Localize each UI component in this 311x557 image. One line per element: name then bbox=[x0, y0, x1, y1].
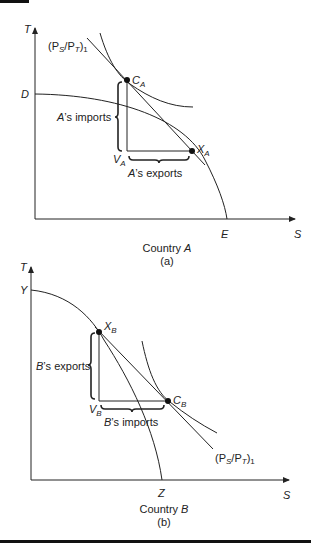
intercept-d-label: D bbox=[21, 88, 29, 100]
indifference-curve-a bbox=[100, 33, 193, 107]
production-point-a bbox=[189, 148, 195, 154]
bottom-rule bbox=[0, 540, 311, 543]
axis-s-label-a: S bbox=[294, 228, 302, 240]
price-ratio-label-b: (PS/PT)1 bbox=[215, 452, 255, 466]
price-line-a bbox=[87, 38, 205, 165]
exports-label-b: B’s exports bbox=[36, 360, 91, 372]
trade-diagram: T S D E (PS/PT)1 CA XA VA A’s imports A’… bbox=[0, 0, 311, 557]
imports-brace-a bbox=[115, 82, 122, 151]
axis-t-label-a: T bbox=[24, 23, 32, 35]
caption-country-b: Country B bbox=[140, 503, 189, 515]
point-xb-label: XB bbox=[103, 320, 117, 335]
caption-country-a: Country A bbox=[143, 242, 192, 254]
exports-brace-a bbox=[129, 156, 189, 163]
panel-b: T S Y Z XB CB VB B’s exports B’s imports… bbox=[20, 261, 291, 528]
intercept-e-label: E bbox=[221, 228, 229, 240]
caption-letter-a: (a) bbox=[160, 255, 173, 267]
price-line-b bbox=[95, 327, 213, 449]
point-cb-label: CB bbox=[173, 394, 187, 409]
panel-a: T S D E (PS/PT)1 CA XA VA A’s imports A’… bbox=[21, 23, 302, 267]
imports-label-b: B’s imports bbox=[104, 416, 159, 428]
caption-letter-b: (b) bbox=[157, 516, 170, 528]
imports-brace-b bbox=[101, 405, 164, 412]
intercept-y-label: Y bbox=[20, 284, 28, 296]
axis-s-label-b: S bbox=[283, 489, 291, 501]
consumption-point-b bbox=[165, 398, 171, 404]
exports-label-a: A’s exports bbox=[127, 167, 183, 179]
consumption-point-a bbox=[124, 77, 130, 83]
top-tab-bar bbox=[0, 0, 29, 3]
imports-label-a: A’s imports bbox=[56, 111, 112, 123]
point-va-label: VA bbox=[113, 153, 126, 168]
production-point-b bbox=[96, 329, 102, 335]
intercept-z-label: Z bbox=[157, 487, 166, 499]
axis-t-label-b: T bbox=[20, 261, 28, 273]
ppf-curve-b bbox=[31, 290, 162, 480]
price-ratio-label-a: (PS/PT)1 bbox=[48, 40, 88, 54]
